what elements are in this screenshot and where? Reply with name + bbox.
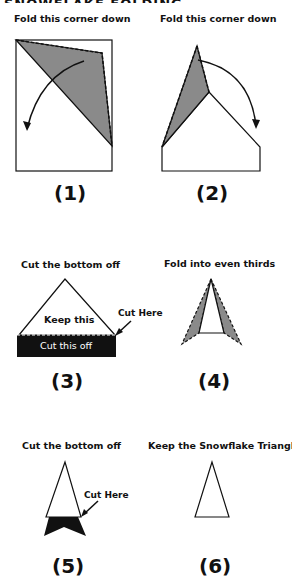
step2-figure (162, 46, 260, 171)
step4-number: (4) (198, 369, 230, 393)
step2-number: (2) (196, 181, 228, 205)
step1-figure (16, 40, 112, 171)
cut-here-label: Cut Here (118, 308, 163, 318)
cut-this-off-label: Cut this off (40, 340, 92, 351)
step5-number: (5) (52, 554, 84, 578)
keep-this-label: Keep this (44, 314, 94, 325)
step4-caption: Fold into even thirds (164, 258, 275, 269)
step3-caption: Cut the bottom off (21, 259, 120, 270)
step4-figure (182, 279, 241, 344)
step1-caption: Fold this corner down (14, 13, 130, 24)
diagram-canvas (0, 0, 292, 582)
step3-number: (3) (51, 369, 83, 393)
step5-caption: Cut the bottom off (22, 440, 121, 451)
step1-number: (1) (54, 181, 86, 205)
step2-caption: Fold this corner down (160, 13, 276, 24)
step6-figure (195, 462, 229, 517)
cut-here-label-5: Cut Here (84, 490, 129, 500)
step6-number: (6) (199, 554, 231, 578)
step6-caption: Keep the Snowflake Triangle (148, 440, 292, 451)
